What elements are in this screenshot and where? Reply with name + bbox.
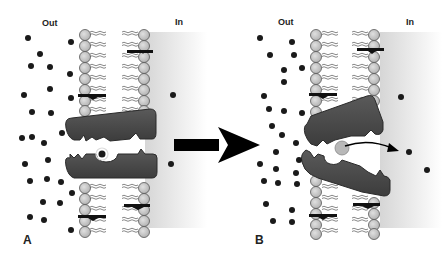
carrier-protein-a <box>66 109 158 178</box>
panel-a <box>19 30 207 238</box>
panel-label-a: A <box>23 233 32 247</box>
binding-site-icon <box>335 141 349 155</box>
panel-label-b: B <box>255 233 264 247</box>
panel-b <box>257 30 442 240</box>
out-label-a: Out <box>42 18 58 28</box>
in-label-a: In <box>175 17 183 27</box>
diagram-stage: Out In A Out In B <box>0 0 442 255</box>
transport-diagram <box>0 0 442 255</box>
bound-solute-icon <box>99 151 106 158</box>
in-label-b: In <box>406 17 414 27</box>
out-label-b: Out <box>278 17 294 27</box>
inside-shading <box>380 32 442 228</box>
